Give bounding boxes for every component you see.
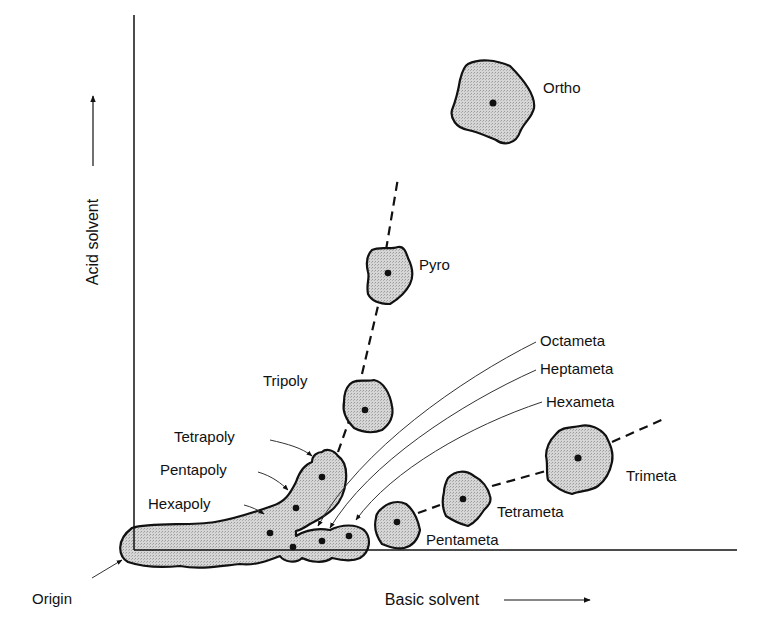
label-trimeta: Trimeta <box>626 467 677 484</box>
spot-ortho: Ortho <box>452 60 581 143</box>
label-ortho: Ortho <box>543 79 581 96</box>
label-hexameta: Hexameta <box>546 393 615 410</box>
label-pentapoly: Pentapoly <box>160 461 227 478</box>
y-axis-label: Acid solvent <box>84 198 101 285</box>
x-axis-label: Basic solvent <box>385 591 480 608</box>
label-tetrapoly: Tetrapoly <box>174 428 235 445</box>
dot-heptameta <box>319 538 326 545</box>
dot-hexapoly <box>267 530 274 537</box>
label-tetrameta: Tetrameta <box>497 503 564 520</box>
spot-pyro: Pyro <box>367 247 450 304</box>
dot-pentapoly <box>293 505 300 512</box>
spot-tripoly: Tripoly <box>263 372 393 432</box>
spot-tetrameta: Tetrameta <box>443 472 565 526</box>
origin-arrow-icon <box>92 560 122 578</box>
label-tripoly: Tripoly <box>263 372 308 389</box>
octameta-arrow-icon <box>318 342 536 526</box>
dot-octameta <box>290 544 297 551</box>
pentapoly-arrow-icon <box>258 472 288 490</box>
spot-trimeta: Trimeta <box>546 425 677 494</box>
x-axis-label-group: Basic solvent <box>385 591 590 608</box>
origin-label: Origin <box>32 590 72 607</box>
y-axis-label-group: Acid solvent <box>84 96 101 285</box>
label-octameta: Octameta <box>540 332 606 349</box>
label-pyro: Pyro <box>419 256 450 273</box>
label-pentameta: Pentameta <box>426 531 499 548</box>
dot-hexameta <box>346 533 353 540</box>
dot-tetrapoly <box>319 474 326 481</box>
label-hexapoly: Hexapoly <box>148 495 211 512</box>
chromatogram-diagram: Acid solvent Basic solvent Origin Ortho … <box>0 0 758 641</box>
tetrapoly-arrow-icon <box>270 440 312 456</box>
label-heptameta: Heptameta <box>540 360 614 377</box>
